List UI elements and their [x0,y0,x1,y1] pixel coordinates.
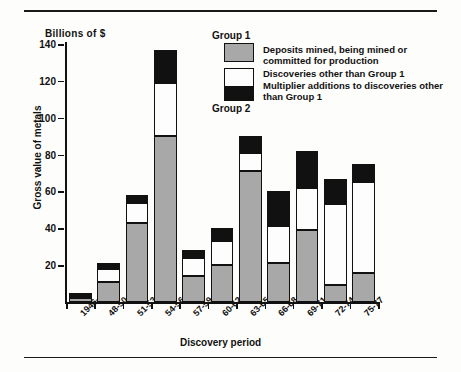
legend-label-gray: Deposits mined, being mined or committed… [263,43,456,66]
y-axis-tick-label: 20 [45,260,56,271]
bar-segment-white [239,153,262,171]
bar-segment-gray [126,223,149,302]
y-axis-tick [58,228,64,230]
top-rule [24,10,437,12]
legend-entry-group1-deposits: Deposits mined, being mined or committed… [212,43,456,66]
bar-segment-white [324,204,347,285]
bar-segment-white [182,258,205,276]
y-axis-unit-label: Billions of $ [45,28,106,39]
legend-entry-discoveries: Discoveries other than Group 1 Multiplie… [212,68,456,101]
bar-66-68 [267,191,290,302]
y-axis-tick-label: 40 [45,223,56,234]
legend-group1-title: Group 1 [212,30,456,41]
bar-segment-black [296,151,319,188]
bar-segment-black [324,179,347,205]
legend-swatch-gray [224,43,254,62]
legend-swatch-white [224,68,254,87]
bar-segment-white [69,296,92,298]
bar-75-77 [352,164,375,302]
y-axis-tick [58,155,64,157]
legend-swatch-stack [224,68,254,101]
x-axis-tick [66,302,68,309]
bar-segment-black [211,228,234,241]
bar-segment-white [154,83,177,136]
y-axis-tick [58,191,64,193]
x-axis-title: Discovery period [180,337,261,348]
bar-segment-white [126,203,149,223]
y-axis-tick-label: 140 [39,39,56,50]
bar-48-50 [97,263,120,302]
bar-segment-gray [296,230,319,302]
bar-segment-black [352,164,375,182]
y-axis-tick-label: 60 [45,186,56,197]
bar-segment-white [97,269,120,282]
y-axis-tick-label: 120 [39,75,56,86]
bar-segment-gray [239,171,262,302]
bar-57-59 [182,250,205,302]
bar-segment-black [69,293,92,297]
y-axis-tick [58,265,64,267]
bar-segment-gray [182,276,205,302]
y-axis-tick [58,44,64,46]
chart-figure: Billions of $ Gross value of metals Disc… [0,0,461,372]
bar-51-53 [126,195,149,302]
bar-segment-black [126,195,149,202]
y-axis-tick-label: 100 [39,112,56,123]
bar-72-74 [324,179,347,302]
bar-54-56 [154,50,177,302]
bar-segment-white [352,182,375,272]
bar-segment-black [239,136,262,153]
bar-segment-black [182,250,205,257]
bar-segment-white [211,241,234,265]
bar-segment-white [267,226,290,263]
bottom-rule [24,357,437,358]
chart-legend: Group 1 Deposits mined, being mined or c… [212,30,456,116]
legend-group2-title: Group 2 [212,103,456,114]
bar-segment-gray [154,136,177,302]
bar-69-71 [296,151,319,302]
bar-segment-black [267,191,290,226]
bar-segment-black [154,50,177,83]
bar-60-62 [211,228,234,302]
legend-label-white: Discoveries other than Group 1 [263,68,456,80]
bar-segment-white [296,188,319,230]
y-axis-tick [58,118,64,120]
bar-segment-black [97,263,120,269]
y-axis-tick [58,81,64,83]
bar-segment-gray [267,263,290,302]
legend-label-black: Multiplier additions to discoveries othe… [263,80,456,102]
bar-segment-gray [211,265,234,302]
y-axis-tick-label: 80 [45,149,56,160]
bar-63-65 [239,136,262,302]
bar-segment-gray [352,273,375,302]
legend-swatch-black [224,87,254,101]
y-axis-title: Gross value of metals [32,83,43,233]
